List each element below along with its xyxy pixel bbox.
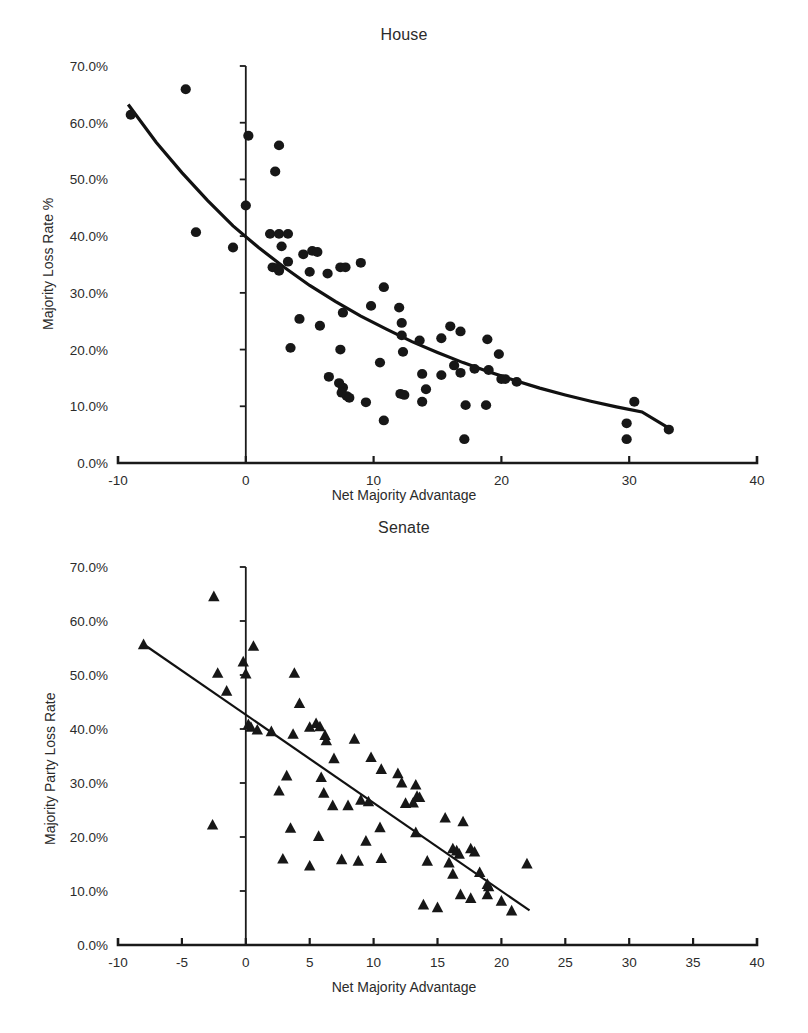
data-point-circle	[181, 84, 191, 94]
data-point-circle	[512, 377, 522, 387]
data-point-circle	[276, 241, 286, 251]
x-tick-label: 15	[430, 955, 445, 970]
data-point-circle	[315, 321, 325, 331]
data-point-circle	[243, 131, 253, 141]
y-tick-label: 20.0%	[70, 830, 108, 845]
data-point-circle	[305, 267, 315, 277]
data-point-triangle	[336, 853, 347, 864]
data-point-group	[138, 591, 533, 916]
data-point-circle	[283, 229, 293, 239]
y-tick-label: 30.0%	[70, 776, 108, 791]
data-point-triangle	[281, 770, 292, 781]
data-point-circle	[436, 333, 446, 343]
y-tick-label: 20.0%	[70, 343, 108, 358]
data-point-circle	[379, 416, 389, 426]
x-tick-label: 0	[242, 473, 250, 488]
data-point-triangle	[474, 866, 485, 877]
x-axis-title-senate: Net Majority Advantage	[0, 979, 808, 995]
data-point-circle	[228, 243, 238, 253]
y-tick-label: 30.0%	[70, 286, 108, 301]
scatter-plot-house: 0.0%10.0%20.0%30.0%40.0%50.0%60.0%70.0%-…	[0, 0, 808, 516]
data-point-circle	[274, 141, 284, 151]
data-point-circle	[398, 347, 408, 357]
x-tick-label: 20	[494, 473, 509, 488]
data-point-triangle	[439, 812, 450, 823]
data-point-circle	[361, 397, 371, 407]
data-point-group	[126, 84, 674, 444]
data-point-circle	[469, 364, 479, 374]
x-tick-label: -5	[176, 955, 188, 970]
data-point-triangle	[496, 895, 507, 906]
data-point-triangle	[289, 667, 300, 678]
data-point-triangle	[432, 902, 443, 913]
data-point-circle	[274, 229, 284, 239]
data-point-triangle	[221, 685, 232, 696]
data-point-triangle	[207, 819, 218, 830]
data-point-circle	[482, 334, 492, 344]
data-point-triangle	[376, 763, 387, 774]
data-point-triangle	[304, 860, 315, 871]
trend-line	[144, 644, 530, 910]
trend-line	[128, 105, 670, 429]
data-point-triangle	[418, 899, 429, 910]
data-point-triangle	[294, 697, 305, 708]
data-point-circle	[500, 374, 510, 384]
data-point-triangle	[374, 822, 385, 833]
data-point-circle	[622, 434, 632, 444]
x-tick-label: -10	[108, 955, 128, 970]
data-point-circle	[356, 258, 366, 268]
y-axis-title-senate: Majority Party Loss Rate	[42, 693, 58, 846]
data-point-circle	[294, 314, 304, 324]
data-point-circle	[338, 308, 348, 318]
data-point-triangle	[248, 640, 259, 651]
data-point-triangle	[287, 728, 298, 739]
x-tick-label: 20	[494, 955, 509, 970]
data-point-circle	[461, 400, 471, 410]
data-point-circle	[397, 318, 407, 328]
y-tick-label: 50.0%	[70, 172, 108, 187]
data-point-circle	[399, 390, 409, 400]
data-point-circle	[455, 368, 465, 378]
data-point-circle	[436, 370, 446, 380]
y-tick-label: 70.0%	[70, 59, 108, 74]
data-point-circle	[394, 303, 404, 313]
data-point-circle	[481, 400, 491, 410]
data-point-triangle	[465, 892, 476, 903]
data-point-triangle	[365, 751, 376, 762]
x-tick-label: 25	[558, 955, 573, 970]
y-tick-label: 0.0%	[77, 456, 108, 471]
data-point-triangle	[208, 591, 219, 602]
data-point-circle	[283, 257, 293, 267]
data-point-triangle	[447, 868, 458, 879]
x-tick-label: 40	[749, 955, 764, 970]
data-point-triangle	[457, 816, 468, 827]
chart-panel-senate: Senate 0.0%10.0%20.0%30.0%40.0%50.0%60.0…	[0, 510, 808, 1033]
y-tick-label: 60.0%	[70, 116, 108, 131]
x-tick-label: 5	[306, 955, 314, 970]
data-point-circle	[366, 301, 376, 311]
data-point-circle	[285, 343, 295, 353]
data-point-circle	[664, 425, 674, 435]
data-point-triangle	[240, 668, 251, 679]
x-tick-label: 30	[622, 473, 637, 488]
data-point-circle	[417, 369, 427, 379]
data-point-circle	[324, 372, 334, 382]
data-point-circle	[415, 336, 425, 346]
data-point-triangle	[212, 667, 223, 678]
data-point-circle	[445, 321, 455, 331]
data-point-circle	[241, 201, 251, 211]
data-point-circle	[126, 110, 136, 120]
data-point-triangle	[285, 822, 296, 833]
y-tick-label: 60.0%	[70, 614, 108, 629]
data-point-triangle	[349, 733, 360, 744]
data-point-circle	[344, 393, 354, 403]
x-tick-label: 10	[366, 473, 381, 488]
data-point-triangle	[410, 779, 421, 790]
y-tick-label: 50.0%	[70, 668, 108, 683]
data-point-circle	[629, 397, 639, 407]
data-point-triangle	[327, 799, 338, 810]
data-point-circle	[459, 434, 469, 444]
data-point-triangle	[238, 656, 249, 667]
data-point-circle	[375, 358, 385, 368]
x-tick-label: -10	[108, 473, 128, 488]
